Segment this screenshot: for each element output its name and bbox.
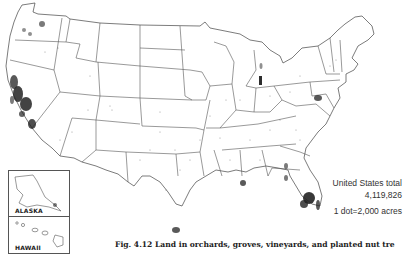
legend-total: 4,119,826 — [365, 190, 402, 201]
figure-caption: Fig. 4.12 Land in orchards, groves, vine… — [115, 240, 395, 249]
legend-title: United States total — [333, 178, 402, 189]
alaska-label: ALASKA — [15, 207, 43, 214]
state-boundaries — [10, 18, 342, 182]
legend-scale: 1 dot=2,000 acres — [334, 206, 402, 217]
alaska-inset: ALASKA — [8, 170, 70, 218]
hawaii-label: HAWAII — [15, 244, 41, 251]
hawaii-inset: HAWAII — [8, 216, 70, 254]
